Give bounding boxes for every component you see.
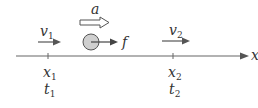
a-label: a — [91, 1, 99, 17]
v2-arrow-icon — [182, 38, 190, 45]
svg-text:v2: v2 — [169, 22, 183, 40]
t1-subscript: 1 — [50, 89, 56, 99]
x1-subscript: 1 — [51, 72, 57, 82]
velocity-v2: v2 — [162, 22, 190, 45]
svg-text:v1: v1 — [40, 23, 54, 41]
svg-text:t2: t2 — [169, 81, 180, 99]
v1-subscript: 1 — [48, 31, 54, 41]
point1-labels: x1 t1 — [43, 64, 57, 99]
acceleration-a: a — [80, 1, 109, 28]
x1-symbol: x — [43, 64, 51, 80]
t2-subscript: 2 — [175, 89, 181, 99]
svg-text:x2: x2 — [168, 64, 182, 82]
x2-subscript: 2 — [176, 72, 182, 82]
v1-arrow-icon — [53, 39, 61, 46]
x-axis: x — [16, 47, 258, 63]
x-axis-label: x — [251, 47, 258, 63]
x2-symbol: x — [168, 64, 176, 80]
svg-text:x1: x1 — [43, 64, 57, 82]
f-label: f — [121, 34, 130, 50]
hollow-arrow-icon — [80, 17, 109, 28]
point2-labels: x2 t2 — [168, 64, 182, 99]
v2-subscript: 2 — [177, 30, 183, 40]
v1-symbol: v — [40, 23, 48, 39]
svg-text:t1: t1 — [44, 81, 55, 99]
v2-symbol: v — [169, 22, 177, 38]
ball-with-friction: f — [83, 34, 130, 50]
f-arrow-icon — [110, 39, 118, 46]
velocity-v1: v1 — [38, 23, 61, 46]
motion-diagram: x v1 a f v2 x1 t1 — [0, 0, 258, 108]
